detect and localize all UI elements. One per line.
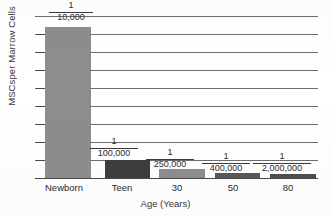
bar-80	[270, 174, 316, 178]
y-axis-tick	[36, 70, 45, 71]
y-axis-tick	[36, 160, 45, 161]
fraction-numerator: 1	[234, 152, 330, 162]
value-label-newborn: 1 10,000	[35, 1, 107, 23]
bar-chart-figure: MSCsper Marrow Cells 1 10,000	[0, 0, 331, 216]
y-axis-tick	[36, 106, 45, 107]
y-axis-tick	[36, 142, 45, 143]
x-axis-category-50: 50	[204, 182, 262, 193]
x-axis-label: Age (Years)	[0, 198, 331, 209]
x-axis-baseline	[35, 178, 318, 179]
fraction-numerator: 1	[68, 137, 160, 147]
x-axis-category-80: 80	[259, 182, 317, 193]
value-label-80: 1 2,000,000	[234, 152, 330, 174]
y-axis-tick	[36, 34, 45, 35]
y-axis-tick	[36, 88, 45, 89]
y-axis-tick	[36, 52, 45, 53]
fraction-denominator: 10,000	[35, 13, 107, 23]
bar-50	[215, 173, 260, 178]
fraction-denominator: 2,000,000	[234, 164, 330, 174]
y-axis-tick	[36, 124, 45, 125]
y-axis-label: MSCsper Marrow Cells	[6, 0, 22, 123]
x-axis-category-newborn: Newborn	[34, 182, 94, 193]
x-axis-category-teen: Teen	[93, 182, 151, 193]
fraction-numerator: 1	[35, 1, 107, 11]
x-axis-category-30: 30	[148, 182, 206, 193]
